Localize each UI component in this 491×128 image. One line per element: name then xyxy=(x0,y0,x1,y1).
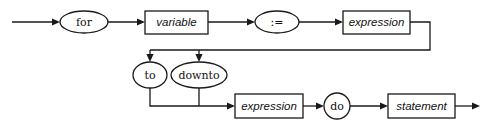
expression-to-do-wire xyxy=(303,102,324,109)
for-to-variable-wire xyxy=(108,18,145,25)
downto-keyword-label: downto xyxy=(178,69,220,82)
node-variable[interactable]: variable xyxy=(145,11,208,34)
node-assign-operator[interactable]: := xyxy=(255,11,299,33)
node-expression-limit[interactable]: expression xyxy=(235,94,303,118)
assign-to-expression-wire xyxy=(299,18,343,25)
statement-label: statement xyxy=(396,100,447,112)
exit-wire xyxy=(455,102,480,109)
railroad-diagram-canvas: for variable := expression to downto xyxy=(0,0,491,128)
for-keyword-label: for xyxy=(76,16,93,29)
branch-to-to-wire xyxy=(146,50,153,62)
merge-to-expression-arrowhead xyxy=(227,102,235,109)
node-do-keyword[interactable]: do xyxy=(324,93,350,119)
node-expression-initial[interactable]: expression xyxy=(343,11,410,34)
branch-to-downto-wire xyxy=(195,50,202,62)
node-to-keyword[interactable]: to xyxy=(133,62,167,88)
expression-initial-label: expression xyxy=(349,16,405,28)
do-keyword-label: do xyxy=(330,100,344,113)
do-to-statement-arrowhead xyxy=(380,102,388,109)
for-statement-railroad-diagram: for variable := expression to downto xyxy=(0,0,491,128)
variable-to-assign-wire xyxy=(208,18,255,25)
variable-label: variable xyxy=(156,16,196,28)
exit-arrowhead xyxy=(472,102,480,109)
branch-to-downto-arrowhead xyxy=(195,54,202,62)
to-merge-wire xyxy=(150,88,231,106)
merge-to-expression-wire xyxy=(227,102,235,109)
entry-wire xyxy=(12,18,60,25)
variable-to-assign-arrowhead xyxy=(247,18,255,25)
assign-operator-label: := xyxy=(271,16,284,29)
for-to-variable-arrowhead xyxy=(137,18,145,25)
node-statement[interactable]: statement xyxy=(388,94,455,118)
entry-arrowhead xyxy=(52,18,60,25)
node-downto-keyword[interactable]: downto xyxy=(171,62,227,88)
expression-to-do-arrowhead xyxy=(316,102,324,109)
node-for-keyword[interactable]: for xyxy=(60,11,108,33)
to-keyword-label: to xyxy=(144,69,155,82)
assign-to-expression-arrowhead xyxy=(335,18,343,25)
branch-to-to-arrowhead xyxy=(146,54,153,62)
expression-limit-label: expression xyxy=(241,100,297,112)
do-to-statement-wire xyxy=(350,102,388,109)
